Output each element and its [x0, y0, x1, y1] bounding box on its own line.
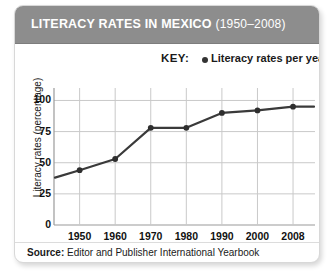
title-years: (1950–2008) — [215, 17, 285, 31]
y-axis-tick-label: 50 — [17, 156, 51, 168]
y-axis-tick-label: 100 — [17, 93, 51, 105]
page-title: LITERACY RATES IN MEXICO (1950–2008) — [31, 17, 286, 31]
source-label: Source: — [27, 247, 64, 258]
x-axis-tick-label: 2008 — [270, 230, 316, 242]
chart-header: LITERACY RATES IN MEXICO (1950–2008) — [15, 6, 319, 44]
source-value: Editor and Publisher International Yearb… — [67, 247, 259, 258]
chart-source: Source: Editor and Publisher Internation… — [15, 242, 319, 263]
title-main: LITERACY RATES IN MEXICO — [31, 17, 212, 31]
legend-key-label: KEY: — [161, 52, 189, 64]
chart-plot-area: Literacy rates (percentage) 0255075100 1… — [15, 70, 320, 240]
y-axis-tick-label: 0 — [17, 218, 51, 230]
chart-card: LITERACY RATES IN MEXICO (1950–2008) KEY… — [14, 5, 320, 263]
x-axis-ticks: 1950196019701980199020002008 — [15, 70, 320, 90]
chart-legend: KEY: Literacy rates per year — [15, 50, 319, 70]
y-axis-ticks: 0255075100 — [17, 70, 51, 240]
source-text: Source: Editor and Publisher Internation… — [27, 247, 259, 258]
y-axis-tick-label: 25 — [17, 187, 51, 199]
y-axis-tick-label: 75 — [17, 125, 51, 137]
legend-series-label: Literacy rates per year — [211, 52, 320, 64]
filled-circle-marker-icon — [202, 57, 208, 63]
line-chart-svg — [15, 70, 320, 240]
